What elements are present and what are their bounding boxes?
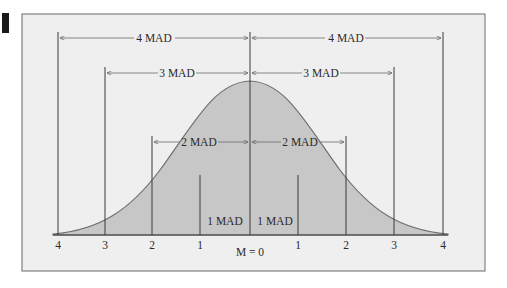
tick-left-4: 4 <box>55 239 61 251</box>
label-4mad-right: 4 MAD <box>328 32 363 44</box>
mad-diagram: 4 MAD 4 MAD 3 MAD 3 MAD 2 MAD 2 MAD 1 MA… <box>0 0 507 288</box>
label-1mad-left: 1 MAD <box>207 215 242 227</box>
tick-right-4: 4 <box>440 239 446 251</box>
label-3mad-left: 3 MAD <box>159 67 194 79</box>
label-2mad-left: 2 MAD <box>181 136 216 148</box>
tick-right-1: 1 <box>295 239 301 251</box>
label-3mad-right: 3 MAD <box>303 67 338 79</box>
tick-right-3: 3 <box>391 239 397 251</box>
tick-left-2: 2 <box>149 239 155 251</box>
tick-right-2: 2 <box>343 239 349 251</box>
tick-left-3: 3 <box>102 239 108 251</box>
label-4mad-left: 4 MAD <box>136 32 171 44</box>
tick-left-1: 1 <box>197 239 203 251</box>
label-2mad-right: 2 MAD <box>282 136 317 148</box>
center-label: M = 0 <box>236 246 264 258</box>
label-1mad-right: 1 MAD <box>257 215 292 227</box>
